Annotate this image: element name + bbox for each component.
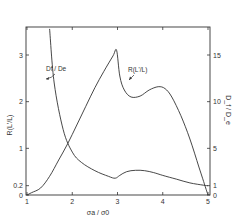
x-tick-label: 4 xyxy=(161,198,165,205)
x-tick-label: 2 xyxy=(70,198,74,205)
y-axis-label: R(L'/L) xyxy=(6,115,14,136)
y-tick-label: 0 xyxy=(19,192,23,199)
y2-tick-label: 10 xyxy=(213,98,221,105)
y2-axis-label: D_f / D_e xyxy=(224,95,232,125)
y-tick-label: 1 xyxy=(19,145,23,152)
data-curves xyxy=(27,29,208,195)
y-tick-label: 0.2 xyxy=(13,182,23,189)
y2-tick-label: 5 xyxy=(213,145,217,152)
x-tick-label: 3 xyxy=(116,198,120,205)
r-ratio-annotation: R(L'/L) xyxy=(128,66,147,74)
chart: 1234500.21230151015 σa / σ0R(L'/L)D_f / … xyxy=(0,0,236,223)
x-tick-label: 1 xyxy=(25,198,29,205)
y-tick-label: 3 xyxy=(19,52,23,59)
y-tick-label: 2 xyxy=(19,98,23,105)
df-de-annotation: Df / De xyxy=(46,65,67,72)
y2-tick-label: 1 xyxy=(213,182,217,189)
df-de-curve xyxy=(50,29,208,186)
x-axis-label: σa / σ0 xyxy=(87,209,109,216)
annotations: Df / DeR(L'/L) xyxy=(46,65,147,80)
y2-tick-label: 0 xyxy=(213,192,217,199)
x-tick-label: 5 xyxy=(206,198,210,205)
y2-tick-label: 15 xyxy=(213,52,221,59)
